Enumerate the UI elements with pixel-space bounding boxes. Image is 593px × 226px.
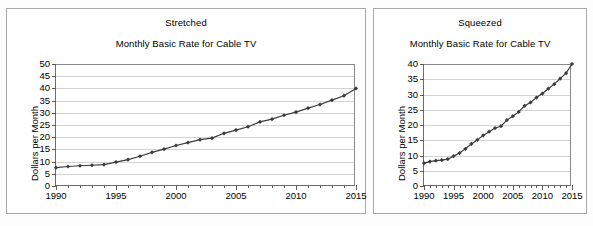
data-series-line xyxy=(56,64,356,186)
y-axis-tick-label: 15 xyxy=(39,145,50,155)
x-axis-tick-label: 2005 xyxy=(502,191,523,201)
y-axis-tick-label: 40 xyxy=(407,59,418,69)
data-series-line xyxy=(424,64,572,186)
x-axis-tick-label: 1995 xyxy=(105,191,126,201)
x-axis-tick-label: 2010 xyxy=(532,191,553,201)
y-axis-tick-label: 50 xyxy=(39,59,50,69)
y-axis-tick-label: 20 xyxy=(407,120,418,130)
panel-label-squeezed: Squeezed xyxy=(374,17,586,28)
y-axis-label-stretched: Dollars per Month xyxy=(29,106,40,181)
y-axis-tick-label: 10 xyxy=(39,157,50,167)
y-axis-tick-label: 35 xyxy=(39,96,50,106)
y-axis-tick-label: 25 xyxy=(407,105,418,115)
plot-area-squeezed: 0510152025303540199019952000200520102015 xyxy=(423,64,571,186)
y-axis-tick-label: 25 xyxy=(39,120,50,130)
y-axis-tick-label: 40 xyxy=(39,84,50,94)
panel-stretched: Stretched Monthly Basic Rate for Cable T… xyxy=(6,8,366,214)
y-axis-tick-label: 30 xyxy=(407,90,418,100)
y-axis-tick-label: 10 xyxy=(407,151,418,161)
y-axis-label-squeezed: Dollars per Month xyxy=(396,106,407,181)
figure-root: Stretched Monthly Basic Rate for Cable T… xyxy=(0,0,593,226)
x-axis-tick-label: 2015 xyxy=(345,191,366,201)
x-axis-tick-label: 1990 xyxy=(413,191,434,201)
y-axis-tick-label: 5 xyxy=(413,166,418,176)
y-axis-tick-label: 35 xyxy=(407,75,418,85)
x-axis-tick-label: 2010 xyxy=(285,191,306,201)
x-axis-tick-label: 2000 xyxy=(473,191,494,201)
x-axis-tick-label: 1990 xyxy=(45,191,66,201)
chart-title-stretched: Monthly Basic Rate for Cable TV xyxy=(7,38,365,49)
y-axis-tick-label: 30 xyxy=(39,108,50,118)
plot-area-stretched: 0510152025303540455019901995200020052010… xyxy=(55,64,355,186)
chart-title-squeezed: Monthly Basic Rate for Cable TV xyxy=(374,38,586,49)
x-axis-tick-label: 2015 xyxy=(561,191,582,201)
y-axis-tick-label: 45 xyxy=(39,71,50,81)
y-axis-tick-label: 20 xyxy=(39,132,50,142)
x-axis-tick-label: 1995 xyxy=(443,191,464,201)
x-axis-tick-label: 2000 xyxy=(165,191,186,201)
panel-squeezed: Squeezed Monthly Basic Rate for Cable TV… xyxy=(373,8,587,214)
x-axis-tick-label: 2005 xyxy=(225,191,246,201)
y-axis-tick-label: 15 xyxy=(407,136,418,146)
y-axis-tick-label: 5 xyxy=(45,169,50,179)
panel-label-stretched: Stretched xyxy=(7,17,365,28)
